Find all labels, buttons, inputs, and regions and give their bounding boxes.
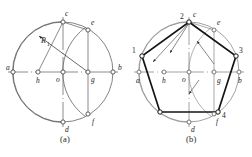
pentagon-vertex-1 <box>140 54 144 58</box>
point-marker-b-b <box>237 70 241 74</box>
panel-b-step-arrow-1 <box>153 23 189 62</box>
vertex-number-3: 3 <box>239 46 243 55</box>
pentagon-vertex-3 <box>234 54 238 58</box>
label-point-e: e <box>91 18 95 27</box>
vertex-number-1: 1 <box>132 46 136 55</box>
point-marker-g-b <box>212 70 216 74</box>
label-point-g-b: g <box>217 76 221 85</box>
panel-b-step-arrow-3 <box>197 41 214 64</box>
label-point-a: a <box>6 63 10 72</box>
label-point-e-b: e <box>217 18 221 27</box>
point-marker-a-b <box>137 70 141 74</box>
point-marker-o <box>61 70 65 74</box>
point-marker-o-b <box>187 70 191 74</box>
point-marker-e-b <box>212 28 216 32</box>
label-point-c-b: c <box>193 10 197 19</box>
point-marker-f <box>86 112 90 116</box>
radius-label-R1-subscript: 1 <box>47 41 50 47</box>
point-marker-d-b <box>187 120 191 124</box>
point-marker-d <box>61 120 65 124</box>
point-marker-c <box>61 20 65 24</box>
pentagon-vertex-2 <box>187 20 191 24</box>
caption-b: (b) <box>186 134 197 144</box>
pentagon-vertex-5 <box>158 110 162 114</box>
pentagon-vertex-4 <box>216 110 220 114</box>
point-marker-h <box>36 70 40 74</box>
label-point-g: g <box>91 75 95 84</box>
panel-b-step-arrow-2 <box>170 23 189 53</box>
label-point-o-b: o <box>182 75 186 84</box>
label-point-b: b <box>118 63 122 72</box>
panel-b-chord-ce <box>189 22 214 30</box>
panel-a-radius-hc <box>38 22 63 72</box>
label-point-f-b: f <box>216 117 219 126</box>
label-point-d: d <box>65 125 69 134</box>
pentagon-construction-figure: a b c d o h g e f R 1 <box>0 0 252 157</box>
point-marker-g <box>86 70 90 74</box>
radius-label-R1-text: R <box>40 36 46 45</box>
label-point-o: o <box>56 75 60 84</box>
panel-b-vertex-numbers: 2 3 4 1 <box>132 12 243 120</box>
vertex-number-2: 2 <box>180 12 184 21</box>
label-point-b-b: b <box>238 76 242 85</box>
figure-root: a b c d o h g e f R 1 <box>0 0 252 157</box>
label-point-a-b: a <box>136 76 140 85</box>
vertex-number-4: 4 <box>222 111 226 120</box>
panel-b: a b c d o h g e f 2 3 4 1 <box>132 10 244 134</box>
panel-a-chord-ce <box>63 22 88 30</box>
point-marker-f-b <box>212 112 216 116</box>
panel-a: a b c d o h g e f R 1 <box>6 9 122 134</box>
label-point-h: h <box>36 76 40 85</box>
annotation-radius-R1: R 1 <box>40 36 50 47</box>
point-marker-b <box>111 70 115 74</box>
label-point-h-b: h <box>162 76 166 85</box>
point-marker-h-b <box>162 70 166 74</box>
point-marker-a <box>11 70 15 74</box>
label-point-d-b: d <box>191 125 195 134</box>
point-marker-e <box>86 28 90 32</box>
label-point-f: f <box>92 117 95 126</box>
caption-a: (a) <box>60 134 70 144</box>
label-point-c: c <box>65 9 69 18</box>
